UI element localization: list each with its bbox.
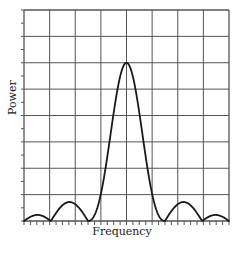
axis-ticks [21,10,229,225]
y-axis-label: Power [6,80,19,115]
power-spectrum-chart [0,0,244,254]
grid-lines [24,10,229,221]
x-axis-label: Frequency [0,225,244,238]
